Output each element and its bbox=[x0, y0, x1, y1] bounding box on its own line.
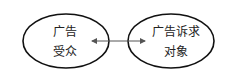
appeal-object-label: 广告诉求 对象 bbox=[150, 24, 202, 61]
appeal-object-label-line1: 广告诉求 bbox=[150, 24, 202, 41]
audience-label: 广告 受众 bbox=[50, 24, 80, 61]
audience-label-line2: 受众 bbox=[50, 44, 80, 61]
audience-label-line1: 广告 bbox=[50, 24, 80, 41]
appeal-object-label-line2: 对象 bbox=[150, 44, 202, 61]
